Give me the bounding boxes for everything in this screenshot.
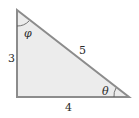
side-vertical-label: 3 [8, 52, 15, 65]
side-horizontal-label: 4 [65, 101, 72, 114]
side-hypotenuse-label: 5 [79, 44, 86, 57]
right-triangle-diagram: φ θ 3 5 4 [0, 0, 139, 118]
angle-theta-label: θ [102, 85, 109, 98]
angle-phi-label: φ [24, 27, 32, 40]
triangle-shape [17, 10, 129, 97]
